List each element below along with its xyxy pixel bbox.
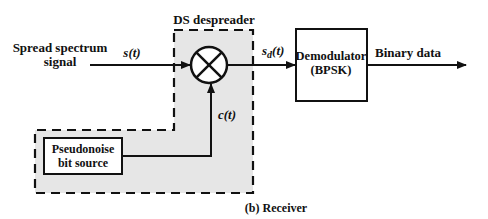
signal-c-label: c(t) xyxy=(218,107,236,122)
pn-label-line2: bit source xyxy=(58,156,109,170)
despreader-title: DS despreader xyxy=(173,12,255,27)
input-label-line1: Spread spectrum xyxy=(13,40,108,55)
receiver-diagram: Spread spectrum signal s(t) DS despreade… xyxy=(0,0,488,219)
demodulator-label-line2: (BPSK) xyxy=(311,63,352,77)
pn-label-line1: Pseudonoise xyxy=(52,142,115,156)
input-label-line2: signal xyxy=(44,54,77,69)
figure-caption: (b) Receiver xyxy=(245,201,308,215)
signal-s-label: s(t) xyxy=(122,45,140,60)
demodulator-label-line1: Demodulator xyxy=(296,49,367,63)
output-label: Binary data xyxy=(375,45,442,60)
signal-sd-label: sd(t) xyxy=(261,43,284,60)
multiplier-icon xyxy=(191,47,227,83)
